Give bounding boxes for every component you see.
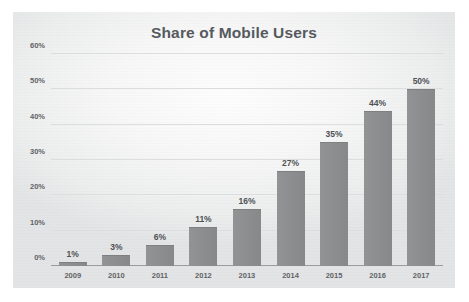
- bar-value-label: 1%: [67, 249, 79, 259]
- bar: [233, 209, 261, 266]
- bar: [59, 262, 87, 266]
- bar: [146, 245, 174, 266]
- bar-chart-figure: Share of Mobile Users 0%10%20%30%40%50%6…: [13, 12, 455, 288]
- bar-value-label: 44%: [369, 98, 386, 108]
- y-axis-tick-label: 20%: [30, 182, 45, 191]
- bar-value-label: 27%: [282, 158, 299, 168]
- bar: [102, 255, 130, 266]
- bar-column: 44%2016: [364, 54, 392, 266]
- bar-column: 27%2014: [277, 54, 305, 266]
- bar: [189, 227, 217, 266]
- chart-title: Share of Mobile Users: [13, 24, 455, 42]
- bar: [320, 142, 348, 266]
- x-axis-tick-label: 2011: [152, 271, 168, 280]
- bar-column: 6%2011: [146, 54, 174, 266]
- bar-column: 11%2012: [189, 54, 217, 266]
- x-axis-tick-label: 2013: [239, 271, 256, 280]
- bar-value-label: 6%: [154, 232, 166, 242]
- bar-column: 35%2015: [320, 54, 348, 266]
- y-axis-tick-label: 10%: [30, 217, 45, 226]
- plot-area: 0%10%20%30%40%50%60% 1%20093%20106%20111…: [51, 54, 443, 266]
- y-axis-tick-label: 50%: [30, 76, 45, 85]
- bar-column: 16%2013: [233, 54, 261, 266]
- bar-column: 50%2017: [407, 54, 435, 266]
- x-axis-tick-label: 2012: [195, 271, 212, 280]
- bar: [277, 171, 305, 266]
- x-axis-tick-label: 2017: [413, 271, 430, 280]
- x-axis-tick-label: 2015: [326, 271, 343, 280]
- y-axis-tick-label: 30%: [30, 147, 45, 156]
- bar-column: 1%2009: [59, 54, 87, 266]
- bar-value-label: 35%: [326, 129, 343, 139]
- bar-value-label: 11%: [195, 214, 212, 224]
- bars-group: 1%20093%20106%201111%201216%201327%20143…: [51, 54, 443, 266]
- x-axis-tick-label: 2009: [64, 271, 81, 280]
- bar: [364, 111, 392, 266]
- y-axis-tick-label: 60%: [30, 41, 45, 50]
- x-axis-tick-label: 2016: [369, 271, 386, 280]
- bar-column: 3%2010: [102, 54, 130, 266]
- bar: [407, 89, 435, 266]
- x-axis-tick-label: 2014: [282, 271, 299, 280]
- y-axis-tick-label: 0%: [34, 253, 45, 262]
- bar-value-label: 50%: [413, 76, 430, 86]
- bar-value-label: 16%: [238, 196, 255, 206]
- bar-value-label: 3%: [110, 242, 122, 252]
- y-axis-tick-label: 40%: [30, 111, 45, 120]
- x-axis-tick-label: 2010: [108, 271, 125, 280]
